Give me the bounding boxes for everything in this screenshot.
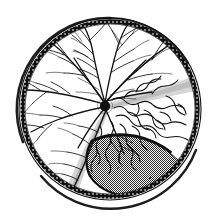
fundus-diagram [0, 0, 218, 218]
figure-root [0, 0, 218, 218]
